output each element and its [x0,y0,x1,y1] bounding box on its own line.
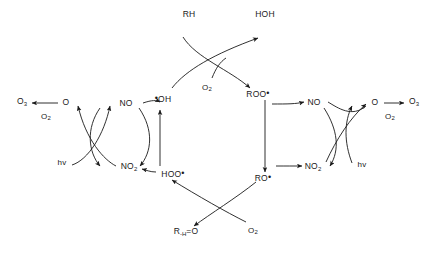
label-photon-right: hv [358,161,367,169]
diagram-arrows-layer [0,0,430,253]
label-ozone-left: O3 [17,97,27,106]
arrow-o2-into-top-node [212,58,226,78]
label-atomic-oxygen-right: O [372,98,379,107]
arrow-no-to-no2-right [324,108,336,166]
arrow-hv-to-atomic-oxygen-right [346,106,352,163]
label-hydroperoxy-radical: HOO• [161,169,184,178]
label-hydroxyl-radical: •OH [155,94,172,103]
label-nitric-oxide-left: NO [119,99,132,108]
label-water: HOH [255,10,275,19]
label-oxygen-top: O2 [202,84,212,92]
label-nitrogen-dioxide-right: NO2 [305,162,322,171]
label-alkoxy-radical: RO• [255,173,272,182]
arrow-no-to-no2-left [139,108,150,166]
label-oxygen-bottom: O2 [248,227,258,235]
label-photon-left: hv [58,159,67,167]
label-carbonyl-product: R-H=O [174,227,199,236]
arrow-ro-to-carbonyl [194,182,256,226]
arrow-roo-to-no-right [272,102,304,104]
label-nitric-oxide-right: NO [307,98,320,107]
arrow-no2-to-atomic-oxygen-left [78,106,116,166]
label-oxygen-right: O2 [385,113,395,121]
arrow-hoo-to-no2 [142,169,156,172]
label-peroxy-radical: ROO• [246,89,269,98]
label-atomic-oxygen-left: O [63,98,70,107]
label-alkane: RH [183,10,196,19]
label-nitrogen-dioxide-left: NO2 [121,162,138,171]
reaction-cycle-diagram: O3 O2 O NO NO2 hv •OH HOO• RH HOH O2 ROO… [0,0,430,253]
label-ozone-right: O3 [409,97,419,106]
arrow-o-cross-to-no-right [328,102,366,112]
arrow-oh-to-hoh [172,38,258,88]
label-oxygen-left: O2 [41,113,51,121]
arrow-left-cycle-lower-limb [90,108,100,166]
arrow-hv-to-no-left [72,106,110,165]
